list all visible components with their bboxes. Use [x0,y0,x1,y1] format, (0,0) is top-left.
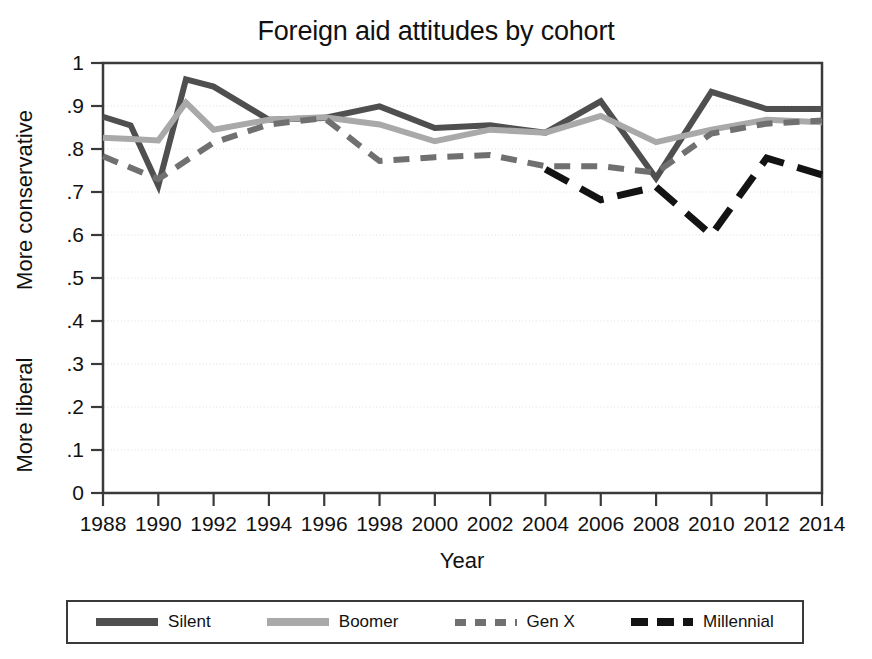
legend-label: Boomer [339,612,399,632]
y-tick-label: .6 [66,223,84,246]
y-tick-label: .5 [66,266,84,289]
x-tick-label: 1996 [301,512,348,535]
y-tick-label: .1 [66,438,84,461]
legend-swatch-icon [455,619,517,626]
x-tick-label: 2004 [522,512,569,535]
legend-label: Millennial [703,612,774,632]
y-tick-label: .2 [66,395,84,418]
x-tick-label: 1992 [190,512,237,535]
x-tick-label: 1990 [135,512,182,535]
series-lines [103,79,822,235]
x-tick-label: 1994 [246,512,293,535]
plot-area: 0.1.2.3.4.5.6.7.8.91 1988199019921994199… [0,0,872,600]
y-tick-label: 0 [72,481,84,504]
y-axis-ticks: 0.1.2.3.4.5.6.7.8.91 [66,51,103,504]
x-axis-label: Year [440,548,484,573]
y-tick-label: .8 [66,137,84,160]
series-line-boomer [103,103,822,143]
legend-label: Gen X [527,612,575,632]
legend-swatch-icon [267,618,329,626]
legend-item-boomer[interactable]: Boomer [267,612,399,632]
x-tick-label: 1988 [80,512,127,535]
x-tick-label: 2006 [577,512,624,535]
y-tick-label: .7 [66,180,84,203]
series-line-millennial [545,158,822,235]
legend-item-silent[interactable]: Silent [96,612,211,632]
x-tick-label: 2002 [467,512,514,535]
y-axis-label-liberal: More liberal [12,358,37,473]
y-tick-label: .3 [66,352,84,375]
legend-item-gen-x[interactable]: Gen X [455,612,575,632]
y-tick-label: .9 [66,94,84,117]
legend-item-millennial[interactable]: Millennial [631,612,774,632]
x-tick-label: 2000 [411,512,458,535]
x-tick-label: 2010 [688,512,735,535]
x-tick-label: 2012 [743,512,790,535]
y-axis-label-conservative: More conservative [12,110,37,290]
y-tick-label: 1 [72,51,84,74]
legend-swatch-icon [96,618,158,626]
legend: SilentBoomerGen XMillennial [66,600,804,644]
x-axis-ticks: 1988199019921994199619982000200220042006… [80,493,846,535]
x-tick-label: 1998 [356,512,403,535]
chart-page: Foreign aid attitudes by cohort 0.1.2.3.… [0,0,872,659]
x-tick-label: 2014 [799,512,846,535]
y-tick-label: .4 [66,309,84,332]
x-tick-label: 2008 [633,512,680,535]
legend-swatch-icon [631,618,693,626]
legend-label: Silent [168,612,211,632]
